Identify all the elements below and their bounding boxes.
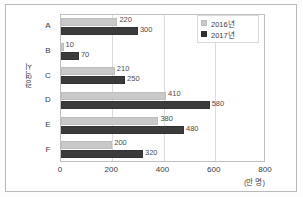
bar-C-2017년	[61, 76, 125, 84]
legend-label-2016: 2016년	[211, 18, 235, 29]
y-tick-B: B	[40, 46, 56, 55]
legend-swatch-icon-2016	[201, 20, 207, 26]
bar-F-2016년	[61, 141, 112, 149]
bar-A-2017년	[61, 27, 138, 35]
legend-label-2017: 2017년	[211, 29, 235, 40]
bar-group: 410580	[61, 89, 264, 114]
bar-value-label: 220	[119, 16, 132, 24]
bar-group: 200320	[61, 138, 264, 163]
x-tick-800: 800	[258, 165, 271, 174]
bar-value-label: 380	[160, 115, 173, 123]
bar-value-label: 480	[186, 125, 199, 133]
bar-C-2016년	[61, 67, 115, 75]
bar-value-label: 250	[127, 75, 140, 83]
legend-item-2017: 2017년	[201, 29, 255, 39]
legend-item-2016: 2016년	[201, 18, 255, 28]
bar-value-label: 70	[81, 51, 89, 59]
legend: 2016년 2017년	[197, 15, 259, 43]
x-tick-400: 400	[156, 165, 169, 174]
bar-D-2016년	[61, 92, 166, 100]
bar-D-2017년	[61, 101, 210, 109]
y-tick-A: A	[40, 21, 56, 30]
bar-E-2016년	[61, 117, 158, 125]
y-tick-E: E	[40, 120, 56, 129]
bar-value-label: 580	[212, 100, 225, 108]
bar-B-2017년	[61, 52, 79, 60]
legend-swatch-icon-2017	[201, 31, 207, 37]
bar-E-2017년	[61, 126, 184, 134]
bar-value-label: 200	[114, 139, 127, 147]
bar-value-label: 300	[140, 26, 153, 34]
x-axis-unit-label: (만 명)	[244, 176, 265, 187]
y-tick-D: D	[40, 95, 56, 104]
x-tick-200: 200	[105, 165, 118, 174]
bar-F-2017년	[61, 150, 143, 158]
bar-group: 380480	[61, 114, 264, 139]
y-axis-title: 광역시	[24, 62, 36, 88]
x-tick-0: 0	[58, 165, 62, 174]
bar-B-2016년	[61, 43, 64, 51]
bar-group: 210250	[61, 64, 264, 89]
bar-value-label: 210	[117, 65, 130, 73]
y-tick-C: C	[40, 71, 56, 80]
chart-figure: 광역시 ABCDEF 22030010702102504105803804802…	[0, 0, 303, 197]
bar-value-label: 410	[168, 90, 181, 98]
bar-value-label: 320	[145, 149, 158, 157]
x-tick-600: 600	[207, 165, 220, 174]
bar-group: 1070	[61, 40, 264, 65]
bar-A-2016년	[61, 18, 117, 26]
bar-value-label: 10	[66, 41, 74, 49]
y-tick-F: F	[40, 145, 56, 154]
